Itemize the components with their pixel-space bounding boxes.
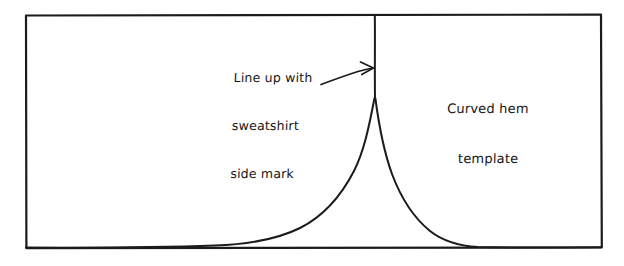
annotation-line-2: sweatshirt [232,118,311,134]
label-line-1: Curved hem [423,101,554,118]
pointer-arrow-head [361,62,374,75]
sketch-sheet: Line up with sweatshirt side mark Curved… [0,0,624,266]
label-curved-hem-template: Curved hem template [420,68,555,201]
label-line-2: template [425,151,552,168]
annotation-line-up-with-side-mark: Line up with sweatshirt side mark [229,38,314,214]
annotation-line-3: side mark [230,166,309,182]
pointer-arrow-shaft [321,68,373,85]
annotation-line-1: Line up with [233,70,312,86]
curved-hem-left [26,99,374,248]
